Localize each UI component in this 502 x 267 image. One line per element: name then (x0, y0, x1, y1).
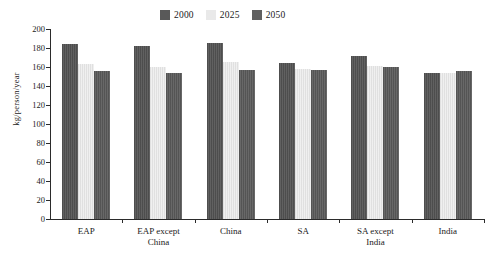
y-tick-label: 60 (37, 158, 46, 166)
bar-2050-eap-except-china (166, 73, 182, 219)
bar-2025-eap-except-china (150, 67, 166, 219)
bar-2025-india (440, 73, 456, 219)
bar-2000-india (424, 73, 440, 219)
x-axis-separator (267, 219, 268, 223)
bar-2000-eap (62, 44, 78, 219)
bar-group (195, 29, 267, 219)
bar-2000-eap-except-china (134, 46, 150, 219)
bar-2000-sa (279, 63, 295, 219)
y-tick-label: 80 (37, 139, 46, 147)
y-tick-label: 0 (41, 215, 45, 223)
y-tick-label: 20 (37, 196, 46, 204)
x-category-label: India (412, 226, 484, 237)
y-tick-label: 180 (32, 44, 45, 52)
x-category-label: China (195, 226, 267, 237)
x-category-label: SA except India (339, 226, 411, 248)
legend-label-2025: 2025 (220, 10, 240, 20)
bar-2050-sa (311, 70, 327, 219)
legend-item-2050: 2050 (252, 10, 286, 20)
bar-group (122, 29, 194, 219)
x-axis-separator (484, 219, 485, 223)
y-tick-label: 200 (32, 25, 45, 33)
bar-group (339, 29, 411, 219)
chart-legend: 2000 2025 2050 (160, 8, 360, 22)
bar-2025-eap (78, 64, 94, 219)
x-category-label: EAP (50, 226, 122, 237)
x-category-label: SA (267, 226, 339, 237)
legend-item-2025: 2025 (206, 10, 240, 20)
legend-item-2000: 2000 (160, 10, 194, 20)
x-category-label: EAP except China (122, 226, 194, 248)
bar-2025-sa (295, 69, 311, 219)
bar-2025-china (223, 62, 239, 219)
bar-2050-india (456, 71, 472, 219)
bar-group (267, 29, 339, 219)
bar-2025-sa-except-india (367, 66, 383, 219)
x-axis-separator (412, 219, 413, 223)
y-tick-mark (46, 219, 50, 220)
x-axis-separator (195, 219, 196, 223)
legend-swatch-2050 (252, 10, 262, 20)
y-tick-label: 120 (32, 101, 45, 109)
legend-swatch-2025 (206, 10, 216, 20)
legend-swatch-2000 (160, 10, 170, 20)
bar-2050-sa-except-india (383, 67, 399, 219)
bar-2050-eap (94, 71, 110, 219)
bar-2000-sa-except-india (351, 56, 367, 219)
bar-2000-china (207, 43, 223, 219)
bar-group (50, 29, 122, 219)
x-axis-separator (122, 219, 123, 223)
y-tick-label: 140 (32, 82, 45, 90)
y-tick-label: 40 (37, 177, 46, 185)
plot-area: 020406080100120140160180200 (50, 29, 484, 219)
bar-2050-china (239, 70, 255, 219)
bar-chart: 2000 2025 2050 kg/person/year 0204060801… (0, 0, 502, 267)
legend-label-2000: 2000 (174, 10, 194, 20)
bar-group (412, 29, 484, 219)
y-tick-label: 160 (32, 63, 45, 71)
y-tick-label: 100 (32, 120, 45, 128)
y-axis-title: kg/person/year (11, 39, 21, 159)
legend-label-2050: 2050 (266, 10, 286, 20)
x-axis-separator (339, 219, 340, 223)
